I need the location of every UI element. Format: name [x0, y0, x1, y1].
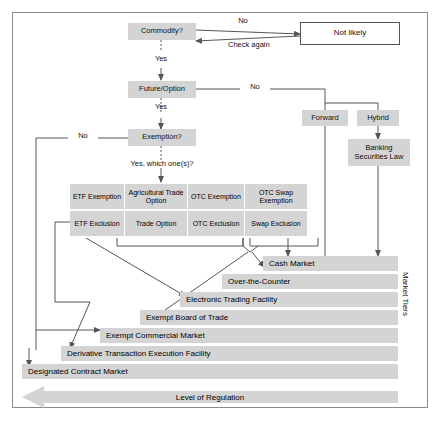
edge-label-exemption-yes: Yes, which one(s)? [120, 159, 204, 168]
grid-cell-etf-exemption[interactable]: ETF Exemption [70, 184, 125, 210]
edge-label-exemption-no: No [68, 131, 98, 140]
node-not-likely[interactable]: Not likely [300, 22, 400, 45]
tier-exempt-commercial-market[interactable]: Exempt Commercial Market [100, 328, 398, 343]
edge-label-future-no: No [240, 82, 270, 91]
node-future-option[interactable]: Future/Option [128, 81, 196, 98]
tier-exempt-board-of-trade[interactable]: Exempt Board of Trade [140, 310, 398, 325]
node-banking-securities-law-label: Banking Securities Law [348, 144, 410, 160]
grid-cell-agricultural-trade-option[interactable]: Agricultural Trade Option [125, 184, 188, 210]
node-hybrid-label: Hybrid [367, 114, 389, 122]
flowchart-page: Commodity? Not likely Future/Option Exem… [0, 0, 441, 430]
tier-derivative-transaction-execution-facility[interactable]: Derivative Transaction Execution Facilit… [61, 346, 398, 361]
grid-cell-otc-exclusion[interactable]: OTC Exclusion [188, 211, 245, 237]
grid-cell-trade-option[interactable]: Trade Option [125, 211, 188, 237]
node-exemption-label: Exemption? [142, 133, 182, 141]
grid-cell-etf-exclusion[interactable]: ETF Exclusion [70, 211, 125, 237]
edge-label-commodity-yes: Yes [146, 54, 176, 63]
grid-cell-swap-exclusion[interactable]: Swap Exclusion [245, 211, 308, 237]
node-banking-securities-law[interactable]: Banking Securities Law [348, 139, 410, 166]
grid-cell-otc-exemption[interactable]: OTC Exemption [188, 184, 245, 210]
node-commodity[interactable]: Commodity? [128, 23, 196, 40]
edge-label-commodity-no: No [228, 16, 258, 25]
node-forward-label: Forward [311, 114, 339, 122]
edge-label-check-again: Check again [228, 41, 268, 50]
market-tiers-axis-label: Market Tiers [401, 272, 410, 316]
node-exemption[interactable]: Exemption? [128, 129, 196, 146]
tier-designated-contract-market[interactable]: Designated Contract Market [22, 364, 398, 379]
node-forward[interactable]: Forward [302, 110, 348, 126]
edge-label-future-yes: Yes [146, 102, 176, 111]
level-of-regulation-label: Level of Regulation [22, 386, 398, 408]
grid-cell-otc-swap-exemption[interactable]: OTC Swap Exemption [245, 184, 308, 210]
tier-over-the-counter[interactable]: Over-the-Counter [222, 274, 398, 289]
node-not-likely-label: Not likely [334, 29, 366, 38]
tier-cash-market[interactable]: Cash Market [263, 256, 398, 271]
node-future-option-label: Future/Option [139, 85, 185, 93]
node-hybrid[interactable]: Hybrid [357, 110, 399, 126]
tier-electronic-trading-facility[interactable]: Electronic Trading Facility [180, 292, 398, 307]
node-commodity-label: Commodity? [141, 27, 183, 35]
level-of-regulation-arrow: Level of Regulation [22, 386, 398, 408]
